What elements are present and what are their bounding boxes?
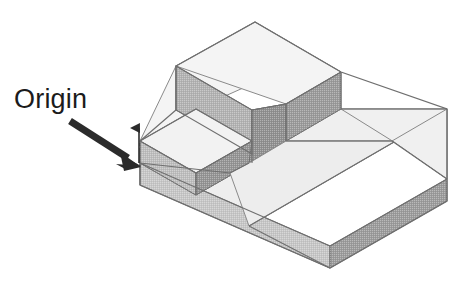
isometric-part-drawing [0,0,459,283]
face-base-front-right-texture [330,179,447,268]
figure-canvas: Origin [0,0,459,283]
origin-callout [70,116,141,171]
origin-label: Origin [14,84,87,114]
part-solid [140,22,447,268]
origin-leader-arrow [70,121,141,171]
